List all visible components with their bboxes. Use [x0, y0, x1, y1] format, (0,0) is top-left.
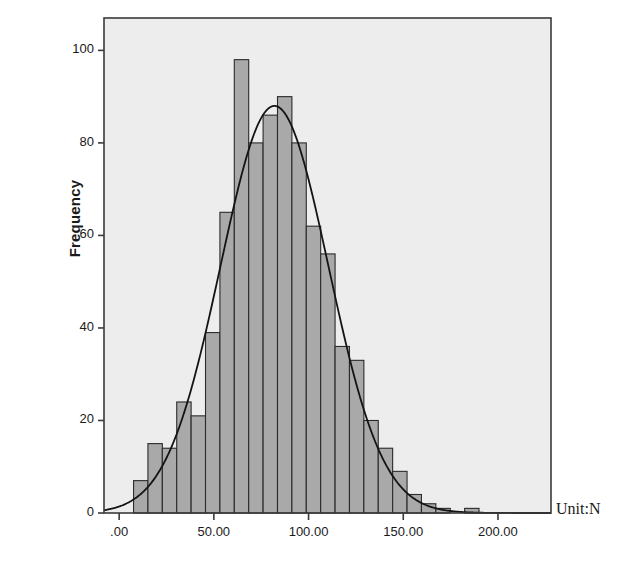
- histogram-bar: [364, 420, 378, 513]
- x-axis-tick-label: 150.00: [363, 524, 443, 539]
- histogram-figure: Frequency 020406080100 .0050.00100.00150…: [0, 0, 623, 571]
- y-axis-tick-label: 80: [38, 134, 94, 149]
- x-axis-tick-label: 50.00: [174, 524, 254, 539]
- y-axis-tick-label: 20: [38, 411, 94, 426]
- x-axis-tick-label: 100.00: [269, 524, 349, 539]
- histogram-bar: [191, 416, 205, 513]
- histogram-bar: [378, 448, 392, 513]
- y-axis-label: Frequency: [66, 139, 83, 299]
- y-axis-tick-label: 0: [38, 504, 94, 519]
- y-axis-tick-label: 40: [38, 319, 94, 334]
- histogram-bar: [306, 226, 320, 513]
- histogram-bar: [234, 60, 248, 513]
- histogram-bar: [249, 143, 263, 513]
- histogram-bar: [206, 333, 220, 513]
- histogram-bar: [335, 346, 349, 513]
- y-axis-tick-label: 60: [38, 226, 94, 241]
- histogram-bar: [263, 115, 277, 513]
- histogram-bar: [177, 402, 191, 513]
- x-axis-tick-label: 200.00: [458, 524, 538, 539]
- histogram-bar: [407, 495, 421, 514]
- y-axis-tick-label: 100: [38, 41, 94, 56]
- x-axis-tick-label: .00: [79, 524, 159, 539]
- histogram-bar: [134, 481, 148, 513]
- histogram-bar: [162, 448, 176, 513]
- plot-canvas: [0, 0, 623, 571]
- unit-annotation-label: Unit:N: [556, 500, 600, 518]
- histogram-bar: [278, 97, 292, 513]
- histogram-bar: [292, 143, 306, 513]
- histogram-bar: [321, 254, 335, 513]
